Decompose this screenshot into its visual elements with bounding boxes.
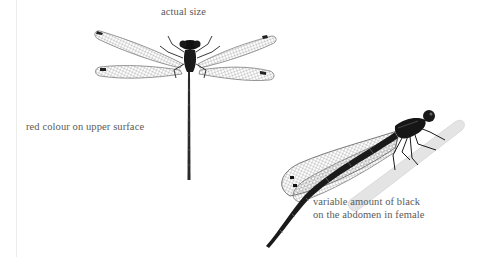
eye-left xyxy=(180,41,187,48)
hindwing-left xyxy=(96,66,183,79)
pterostigma-icon xyxy=(293,184,297,187)
eye-highlight xyxy=(430,113,433,116)
pterostigma-icon xyxy=(290,176,294,179)
eye-right xyxy=(194,41,201,48)
damselfly-dorsal-view xyxy=(95,31,276,180)
caption-female-abdomen: variable amount of black on the abdomen … xyxy=(313,195,424,221)
head-female xyxy=(423,110,435,122)
thorax xyxy=(184,50,196,72)
caption-female-abdomen-line1: variable amount of black xyxy=(313,195,424,208)
caption-upper-surface: red colour on upper surface xyxy=(26,120,144,133)
abdomen xyxy=(188,72,191,180)
caption-female-abdomen-line2: on the abdomen in female xyxy=(313,208,424,221)
hindwing-right xyxy=(199,67,274,80)
forewing-left xyxy=(95,31,183,68)
damselfly-side-view-female xyxy=(266,110,464,248)
caption-actual-size: actual size xyxy=(161,5,206,18)
pterostigma-icon xyxy=(100,68,106,71)
